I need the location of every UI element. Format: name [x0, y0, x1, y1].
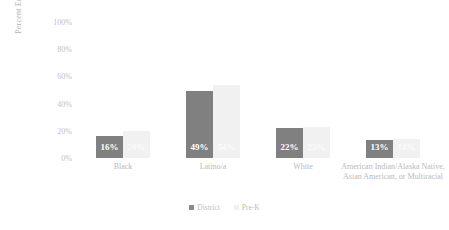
plot-area: 16%20%49%54%22%23%13%14% — [78, 22, 438, 158]
bar-group: 49%54% — [168, 22, 258, 158]
y-axis-tick-20: 20% — [57, 126, 72, 135]
y-axis-tick-80: 80% — [57, 45, 72, 54]
bar-group: 16%20% — [78, 22, 168, 158]
bar-pre-k[interactable]: 23% — [303, 127, 330, 158]
bar-group: 22%23% — [258, 22, 348, 158]
legend-item-prek: Pre-K — [234, 203, 260, 212]
x-axis-tick-label: White — [268, 162, 338, 172]
bar-district[interactable]: 49% — [186, 91, 213, 158]
bar-value-label: 22% — [276, 142, 303, 152]
bar-value-label: 54% — [213, 142, 240, 152]
bar-value-label: 14% — [393, 142, 420, 152]
legend-label-prek: Pre-K — [242, 203, 260, 212]
bar-value-label: 23% — [303, 142, 330, 152]
legend-swatch-prek-icon — [234, 205, 239, 210]
y-axis-title: Percent Enrollment — [14, 0, 23, 56]
bar-district[interactable]: 22% — [276, 128, 303, 158]
y-axis-tick-60: 60% — [57, 72, 72, 81]
bar-value-label: 16% — [96, 142, 123, 152]
bar-pre-k[interactable]: 20% — [123, 131, 150, 158]
y-axis-tick-40: 40% — [57, 99, 72, 108]
bar-group: 13%14% — [348, 22, 438, 158]
bar-group-bars: 49%54% — [168, 22, 258, 158]
bar-district[interactable]: 16% — [96, 136, 123, 158]
legend-label-district: District — [197, 203, 220, 212]
bar-value-label: 13% — [366, 142, 393, 152]
bar-pre-k[interactable]: 54% — [213, 85, 240, 158]
bar-value-label: 20% — [123, 142, 150, 152]
legend-item-district: District — [189, 203, 220, 212]
y-axis-tick-0: 0% — [61, 154, 72, 163]
x-axis-tick-label: Latino/a — [178, 162, 248, 172]
chart-legend: District Pre-K — [0, 203, 449, 212]
bar-group-bars: 16%20% — [78, 22, 168, 158]
x-axis-tick-label: American Indian/Alaska Native, Asian Ame… — [338, 162, 448, 182]
legend-swatch-district-icon — [189, 205, 194, 210]
bar-value-label: 49% — [186, 142, 213, 152]
bar-group-bars: 13%14% — [348, 22, 438, 158]
bar-district[interactable]: 13% — [366, 140, 393, 158]
y-axis-tick-100: 100% — [53, 18, 72, 27]
bar-group-bars: 22%23% — [258, 22, 348, 158]
y-axis-tick-labels: 100%80%60%40%20%0% — [38, 0, 72, 230]
bar-pre-k[interactable]: 14% — [393, 139, 420, 158]
x-axis-tick-label: Black — [88, 162, 158, 172]
bar-chart: Percent Enrollment 100%80%60%40%20%0% 16… — [0, 0, 449, 230]
